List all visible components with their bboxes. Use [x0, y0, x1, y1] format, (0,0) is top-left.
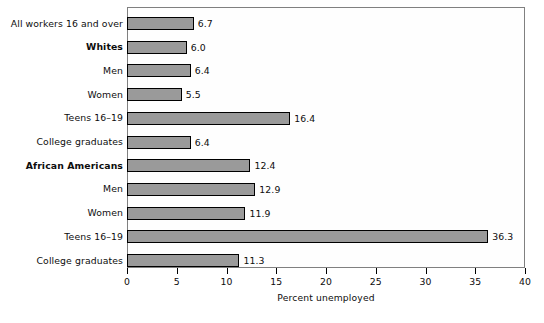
bar-value-label: 6.7	[198, 17, 213, 30]
bars-layer: 6.76.06.45.516.46.412.412.911.936.311.3	[127, 7, 525, 268]
x-tick-label: 30	[411, 276, 441, 287]
category-label: College graduates	[0, 137, 123, 147]
x-tick-mark	[525, 268, 526, 274]
category-label: Women	[0, 208, 123, 218]
category-label: Teens 16–19	[0, 232, 123, 242]
bar-value-label: 12.9	[259, 183, 280, 196]
x-tick-mark	[276, 268, 277, 274]
bar-value-label: 5.5	[186, 88, 201, 101]
bar	[127, 17, 194, 30]
category-label: All workers 16 and over	[0, 19, 123, 29]
x-tick-mark	[326, 268, 327, 274]
bar	[127, 230, 488, 243]
bar	[127, 41, 187, 54]
x-tick-label: 10	[212, 276, 242, 287]
bar-value-label: 6.0	[191, 41, 206, 54]
bar	[127, 88, 182, 101]
x-tick-mark	[426, 268, 427, 274]
bar-value-label: 11.3	[243, 254, 264, 267]
x-tick-label: 35	[460, 276, 490, 287]
bar	[127, 159, 250, 172]
bar	[127, 64, 191, 77]
category-label: Women	[0, 90, 123, 100]
unemployment-bar-chart: All workers 16 and overWhitesMenWomenTee…	[0, 0, 544, 323]
bar-value-label: 11.9	[249, 207, 270, 220]
category-label: Men	[0, 184, 123, 194]
x-tick-label: 0	[112, 276, 142, 287]
bar	[127, 112, 290, 125]
x-tick-label: 15	[261, 276, 291, 287]
x-tick-mark	[475, 268, 476, 274]
category-axis-labels: All workers 16 and overWhitesMenWomenTee…	[0, 0, 123, 268]
bar-value-label: 12.4	[254, 159, 275, 172]
bar	[127, 183, 255, 196]
category-label: African Americans	[0, 161, 123, 171]
x-tick-label: 5	[162, 276, 192, 287]
category-label: College graduates	[0, 256, 123, 266]
bar	[127, 254, 239, 267]
bar-value-label: 36.3	[492, 230, 513, 243]
x-tick-mark	[227, 268, 228, 274]
x-axis-title: Percent unemployed	[127, 292, 525, 303]
category-label: Whites	[0, 42, 123, 52]
x-tick-label: 25	[361, 276, 391, 287]
bar-value-label: 6.4	[195, 64, 210, 77]
bar	[127, 207, 245, 220]
x-tick-label: 40	[510, 276, 540, 287]
bar-value-label: 16.4	[294, 112, 315, 125]
category-label: Men	[0, 66, 123, 76]
x-tick-mark	[177, 268, 178, 274]
bar	[127, 136, 191, 149]
x-tick-mark	[376, 268, 377, 274]
x-tick-label: 20	[311, 276, 341, 287]
x-tick-mark	[127, 268, 128, 274]
bar-value-label: 6.4	[195, 136, 210, 149]
category-label: Teens 16–19	[0, 113, 123, 123]
